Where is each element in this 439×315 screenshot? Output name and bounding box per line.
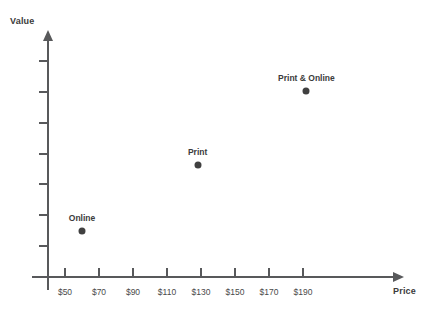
x-axis-tick-label: $190	[294, 287, 313, 297]
x-axis-title: Price	[393, 286, 416, 296]
data-point	[303, 87, 310, 94]
x-axis-tick	[234, 268, 236, 277]
x-axis-tick-label: $90	[126, 287, 140, 297]
y-axis-tick	[39, 60, 48, 62]
y-axis-tick	[39, 183, 48, 185]
data-point-label: Print & Online	[278, 73, 335, 83]
y-axis-tick	[39, 214, 48, 216]
x-axis-tick	[166, 268, 168, 277]
data-point	[194, 161, 201, 168]
data-point	[79, 228, 86, 235]
x-axis-tick-label: $70	[92, 287, 106, 297]
y-axis-tick	[39, 91, 48, 93]
x-axis-tick-label: $130	[192, 287, 211, 297]
y-axis-tick	[39, 245, 48, 247]
x-axis-tick-label: $170	[260, 287, 279, 297]
x-axis-tick	[98, 268, 100, 277]
data-point-label: Print	[188, 147, 207, 157]
x-axis-tick	[132, 268, 134, 277]
y-axis-title: Value	[10, 16, 35, 26]
data-point-label: Online	[69, 213, 95, 223]
x-axis-tick	[200, 268, 202, 277]
x-axis-tick-label: $110	[158, 287, 176, 297]
x-axis-line	[32, 276, 395, 278]
y-axis-arrow-icon	[43, 30, 53, 41]
x-axis-tick-label: $150	[226, 287, 245, 297]
x-axis-tick	[302, 268, 304, 277]
y-axis-tick	[39, 122, 48, 124]
x-axis-tick-label: $50	[58, 287, 72, 297]
x-axis-arrow-icon	[393, 272, 404, 282]
scatter-chart: Value Price $50$70$90$110$130$150$170$19…	[0, 0, 439, 315]
y-axis-tick	[39, 153, 48, 155]
y-axis-line	[47, 40, 49, 290]
x-axis-tick	[268, 268, 270, 277]
x-axis-tick	[64, 268, 66, 277]
